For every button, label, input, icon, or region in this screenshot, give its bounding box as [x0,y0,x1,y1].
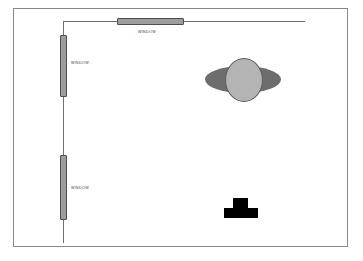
planet-shape [203,56,283,104]
window-label-top: WINDOW [138,31,156,35]
t-shaped-object [224,198,258,218]
floor-plan-canvas: WINDOW WINDOW WINDOW [0,0,363,261]
window-bar-upper-left [60,35,67,97]
window-bar-lower-left [60,155,67,220]
window-bar-top [117,18,184,25]
wall-top [63,21,305,22]
window-label-lower-left: WINDOW [71,187,89,191]
planet-body-ellipse [225,58,263,102]
window-label-upper-left: WINDOW [71,62,89,66]
object-base-block [224,208,258,218]
